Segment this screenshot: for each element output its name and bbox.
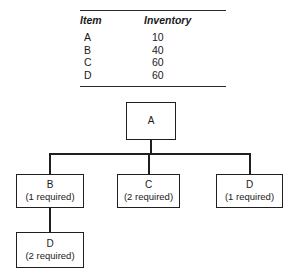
edge-bus-to-c — [148, 153, 150, 174]
tree-node-b: B (1 required) — [16, 174, 84, 208]
tree-node-a-label: A — [148, 115, 155, 127]
tree-node-d-bottom: D (2 required) — [16, 232, 84, 268]
tree-node-d-right-quantity: (1 required) — [225, 191, 274, 203]
tree-node-c: C (2 required) — [117, 174, 180, 208]
tree-node-d-right: D (1 required) — [216, 174, 283, 208]
edge-bus-to-b — [49, 153, 51, 174]
tree-node-d-bottom-label: D — [46, 238, 53, 250]
edge-b-to-d — [49, 208, 51, 232]
edge-bus-to-d — [249, 153, 251, 174]
tree-node-c-label: C — [145, 179, 152, 191]
tree-node-c-quantity: (2 required) — [124, 191, 173, 203]
bill-of-materials-tree: A B (1 required) C (2 required) D (1 req… — [0, 0, 295, 280]
edge-horizontal-bus — [49, 153, 251, 155]
tree-node-b-quantity: (1 required) — [25, 191, 74, 203]
tree-node-d-right-label: D — [246, 179, 253, 191]
tree-node-b-label: B — [47, 179, 54, 191]
tree-node-d-bottom-quantity: (2 required) — [25, 250, 74, 262]
tree-node-a: A — [126, 102, 176, 140]
